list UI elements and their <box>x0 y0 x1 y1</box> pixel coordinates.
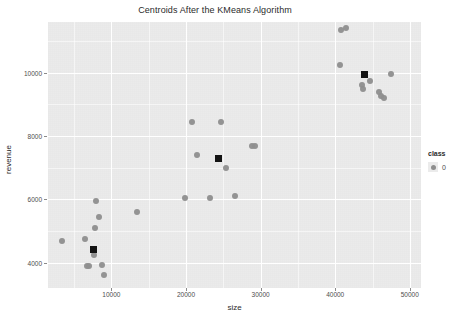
data-point <box>101 272 107 278</box>
grid-minor-vertical <box>74 22 75 288</box>
x-axis-tick-label: 30000 <box>236 291 286 298</box>
x-axis-tick-mark <box>335 288 336 291</box>
y-axis-tick-mark <box>44 136 47 137</box>
data-point <box>232 193 238 199</box>
centroid-marker <box>215 155 222 162</box>
data-point <box>99 262 105 268</box>
data-point <box>381 95 387 101</box>
data-point <box>134 209 140 215</box>
grid-minor-vertical <box>149 22 150 288</box>
y-axis-tick-label: 10000 <box>0 69 42 76</box>
x-axis-tick-mark <box>186 288 187 291</box>
grid-minor-horizontal <box>48 104 421 105</box>
x-axis-tick-label: 20000 <box>161 291 211 298</box>
data-point <box>223 165 229 171</box>
legend-circle-icon <box>431 165 436 170</box>
data-point <box>189 119 195 125</box>
grid-minor-horizontal <box>48 41 421 42</box>
data-point <box>252 143 258 149</box>
data-point <box>343 25 349 31</box>
x-axis-tick-label: 40000 <box>310 291 360 298</box>
chart-title: Centroids After the KMeans Algorithm <box>0 5 430 15</box>
data-point <box>92 225 98 231</box>
y-axis-tick-label: 6000 <box>0 196 42 203</box>
grid-minor-vertical <box>298 22 299 288</box>
data-point <box>182 195 188 201</box>
y-axis-tick-mark <box>44 199 47 200</box>
panel-texture <box>48 22 421 288</box>
legend-entry[interactable]: 0 <box>428 162 446 172</box>
y-axis-title: revenue <box>4 130 13 190</box>
plot-panel <box>48 22 421 288</box>
data-point <box>93 198 99 204</box>
x-axis-tick-label: 10000 <box>86 291 136 298</box>
data-point <box>82 236 88 242</box>
legend-entry-label: 0 <box>442 164 446 171</box>
grid-minor-horizontal <box>48 231 421 232</box>
legend-title: class <box>428 150 446 157</box>
x-axis-tick-mark <box>261 288 262 291</box>
data-point <box>388 71 394 77</box>
data-point <box>96 214 102 220</box>
data-point <box>86 263 92 269</box>
grid-major-vertical <box>410 22 411 288</box>
data-point <box>91 252 97 258</box>
centroid-marker <box>361 71 368 78</box>
x-axis-tick-mark <box>111 288 112 291</box>
x-axis-tick-mark <box>410 288 411 291</box>
grid-major-horizontal <box>48 199 421 200</box>
chart-root: Centroids After the KMeans Algorithm 400… <box>0 0 461 331</box>
grid-major-vertical <box>261 22 262 288</box>
grid-major-vertical <box>335 22 336 288</box>
data-point <box>194 152 200 158</box>
grid-major-vertical <box>186 22 187 288</box>
grid-major-horizontal <box>48 136 421 137</box>
legend: class 0 <box>428 150 446 172</box>
legend-entries: 0 <box>428 162 446 172</box>
legend-key-swatch <box>428 162 438 172</box>
y-axis-tick-mark <box>44 263 47 264</box>
x-axis-tick-label: 50000 <box>385 291 435 298</box>
x-axis-title: size <box>48 303 421 312</box>
data-point <box>360 86 366 92</box>
centroid-marker <box>90 246 97 253</box>
grid-minor-vertical <box>373 22 374 288</box>
grid-minor-vertical <box>223 22 224 288</box>
data-point <box>337 62 343 68</box>
y-axis-tick-label: 4000 <box>0 259 42 266</box>
data-point <box>59 238 65 244</box>
data-point <box>218 119 224 125</box>
data-point <box>207 195 213 201</box>
grid-minor-horizontal <box>48 168 421 169</box>
data-point <box>367 78 373 84</box>
grid-major-vertical <box>111 22 112 288</box>
y-axis-tick-mark <box>44 73 47 74</box>
